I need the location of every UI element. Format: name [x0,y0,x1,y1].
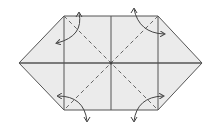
center-point [110,62,113,65]
origami-diagram [0,0,213,131]
